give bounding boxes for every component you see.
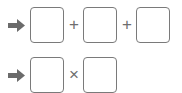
row-multiplication: ×: [0, 57, 182, 93]
answer-box-4[interactable]: [30, 57, 64, 93]
right-arrow-icon: [8, 69, 25, 82]
answer-box-5[interactable]: [83, 57, 117, 93]
answer-box-1[interactable]: [30, 7, 64, 43]
times-operator: ×: [67, 57, 81, 93]
row-addition: + +: [0, 7, 182, 44]
right-arrow-icon: [8, 19, 25, 32]
plus-operator: +: [67, 7, 81, 43]
answer-box-3[interactable]: [136, 7, 170, 43]
plus-operator: +: [120, 7, 134, 43]
answer-box-2[interactable]: [83, 7, 117, 43]
